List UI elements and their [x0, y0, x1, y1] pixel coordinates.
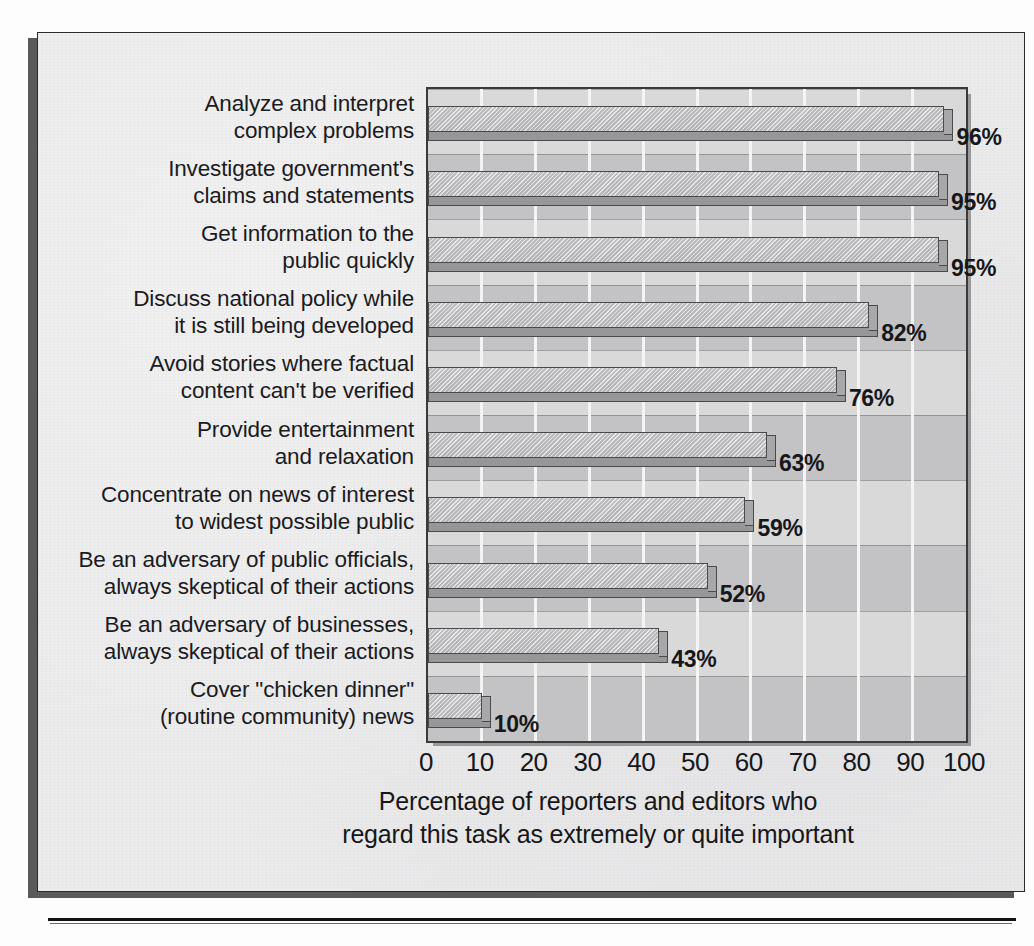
bar-bottom-edge	[428, 263, 948, 272]
bar-value-label: 95%	[951, 189, 996, 216]
bar-value-label: 63%	[779, 450, 824, 477]
bar-end-cap	[745, 500, 754, 526]
x-tick-label: 60	[735, 747, 763, 778]
category-label: Discuss national policy while it is stil…	[133, 285, 414, 339]
bar-bottom-edge	[428, 458, 776, 467]
x-tick-label: 70	[789, 747, 817, 778]
category-label: Cover "chicken dinner" (routine communit…	[160, 676, 414, 730]
bar-value-label: 52%	[720, 581, 765, 608]
bar	[428, 171, 948, 206]
figure-panel: Analyze and interpret complex problemsIn…	[37, 32, 1025, 892]
bar-end-cap	[869, 305, 878, 331]
bar-face	[428, 171, 939, 197]
bar	[428, 432, 776, 467]
bar	[428, 237, 948, 272]
bar	[428, 693, 491, 728]
bar-face	[428, 367, 837, 393]
bar	[428, 302, 878, 337]
bar-face	[428, 302, 869, 328]
x-tick-label: 50	[681, 747, 709, 778]
bar-face	[428, 693, 482, 719]
bar-end-cap	[939, 240, 948, 266]
x-tick-label: 20	[520, 747, 548, 778]
bar-end-cap	[659, 631, 668, 657]
footer-divider-shadow	[50, 923, 1012, 924]
x-tick-label: 40	[627, 747, 655, 778]
bar-bottom-edge	[428, 654, 668, 663]
x-tick-label: 90	[896, 747, 924, 778]
x-tick-label: 30	[573, 747, 601, 778]
category-label: Concentrate on news of interest to wides…	[101, 481, 414, 535]
bar	[428, 497, 754, 532]
x-tick-label: 80	[842, 747, 870, 778]
bar-end-cap	[708, 566, 717, 592]
bar-end-cap	[482, 696, 491, 722]
category-label: Be an adversary of businesses, always sk…	[104, 611, 414, 665]
bar-value-label: 43%	[671, 646, 716, 673]
category-label: Provide entertainment and relaxation	[197, 416, 414, 470]
x-tick-label: 100	[943, 747, 985, 778]
bar-face	[428, 497, 745, 523]
bar	[428, 563, 717, 598]
caption-line-2: regard this task as extremely or quite i…	[342, 820, 853, 848]
bar-value-label: 59%	[757, 515, 802, 542]
bar-bottom-edge	[428, 523, 754, 532]
bar-value-label: 95%	[951, 255, 996, 282]
category-label: Avoid stories where factual content can'…	[150, 350, 414, 404]
category-label: Be an adversary of public officials, alw…	[78, 546, 414, 600]
category-label: Analyze and interpret complex problems	[205, 90, 414, 144]
x-tick-label: 0	[419, 747, 433, 778]
footer-divider	[48, 918, 1016, 921]
bar	[428, 106, 953, 141]
bar-bottom-edge	[428, 328, 878, 337]
bar	[428, 628, 668, 663]
bar-bottom-edge	[428, 197, 948, 206]
bar-value-label: 10%	[494, 711, 539, 738]
bar-bottom-edge	[428, 132, 953, 141]
bar-bottom-edge	[428, 393, 846, 402]
bar-value-label: 96%	[956, 124, 1001, 151]
figure-page: Analyze and interpret complex problemsIn…	[0, 0, 1034, 946]
bar-face	[428, 563, 708, 589]
category-label: Get information to the public quickly	[201, 220, 414, 274]
bar	[428, 367, 846, 402]
plot-area	[426, 87, 968, 743]
bar-value-label: 76%	[849, 385, 894, 412]
caption-line-1: Percentage of reporters and editors who	[379, 787, 817, 815]
bar-bottom-edge	[428, 589, 717, 598]
bar-face	[428, 237, 939, 263]
bar-end-cap	[944, 109, 953, 135]
x-axis-caption: Percentage of reporters and editors whor…	[248, 785, 948, 851]
bar-face	[428, 628, 659, 654]
x-tick-label: 10	[466, 747, 494, 778]
bar-end-cap	[837, 370, 846, 396]
bar-face	[428, 432, 767, 458]
bar-end-cap	[767, 435, 776, 461]
bar-end-cap	[939, 174, 948, 200]
category-label: Investigate government's claims and stat…	[168, 155, 414, 209]
bar-value-label: 82%	[881, 320, 926, 347]
bar-face	[428, 106, 944, 132]
